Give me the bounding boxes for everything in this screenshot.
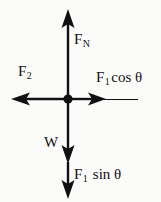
label-weight-base: W — [44, 134, 58, 150]
label-force-one-sin: F1sin θ — [74, 166, 121, 184]
force-diagram-figure: FN F2 F1cos θ W F1sin θ — [0, 0, 161, 202]
label-force-one-cos-tail: cos θ — [110, 69, 142, 85]
label-normal-force: FN — [74, 31, 90, 49]
normal-force-arrow — [62, 9, 75, 99]
weight-arrow — [62, 99, 75, 164]
label-weight: W — [44, 134, 58, 150]
origin-point — [63, 94, 72, 103]
label-force-two-subscript: 2 — [26, 70, 32, 81]
force-one-cos-arrow — [68, 93, 106, 106]
force-two-arrow — [11, 93, 68, 106]
label-force-one-cos: F1cos θ — [96, 69, 142, 87]
force-one-sin-arrow — [62, 162, 75, 199]
label-force-one-sin-tail: sin θ — [88, 166, 121, 182]
label-force-two: F2 — [18, 63, 32, 81]
label-normal-force-subscript: N — [82, 38, 90, 49]
